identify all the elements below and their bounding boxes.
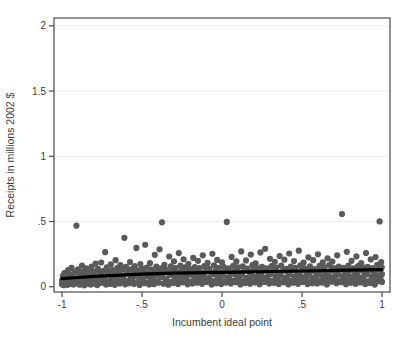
data-point [339, 211, 345, 217]
data-point [377, 218, 383, 224]
data-point [157, 246, 163, 252]
data-point [152, 252, 158, 258]
data-point [195, 258, 201, 264]
data-point [373, 254, 379, 260]
data-point [205, 260, 211, 266]
data-point [334, 252, 340, 258]
data-point [353, 253, 359, 259]
data-point [127, 259, 133, 265]
data-point [209, 251, 215, 257]
gridlines [55, 26, 389, 287]
data-point [113, 257, 119, 263]
scatter-plot: 0.511.52-1-.50.51Incumbent ideal pointRe… [0, 0, 412, 343]
y-axis-title: Receipts in millions 2002 $ [4, 92, 16, 217]
data-point [73, 223, 79, 229]
data-point [296, 248, 302, 254]
x-tick-label: -1 [58, 299, 67, 310]
data-point [243, 257, 249, 263]
data-point [315, 251, 321, 257]
data-point [147, 260, 153, 266]
x-tick-label: -.5 [136, 299, 148, 310]
data-point [229, 254, 235, 260]
y-tick-label: 1 [40, 151, 46, 162]
data-point [363, 250, 369, 256]
data-point [248, 251, 254, 257]
data-point [262, 246, 268, 252]
data-point [272, 259, 278, 265]
x-axis: -1-.50.51 [58, 292, 386, 310]
data-point [108, 261, 114, 267]
data-point [181, 256, 187, 262]
data-point [329, 259, 335, 265]
y-axis: 0.511.52 [32, 20, 54, 292]
data-point [233, 258, 239, 264]
data-point [166, 253, 172, 259]
y-tick-label: 1.5 [32, 86, 46, 97]
data-point [379, 271, 385, 277]
data-point [238, 248, 244, 254]
data-point [142, 242, 148, 248]
data-point [224, 219, 230, 225]
data-point [200, 252, 206, 258]
x-tick-label: 0 [219, 299, 225, 310]
data-point [310, 257, 316, 263]
data-point [185, 261, 191, 267]
x-tick-label: .5 [298, 299, 307, 310]
y-tick-label: 0 [40, 281, 46, 292]
y-tick-label: .5 [38, 216, 47, 227]
x-axis-title: Incumbent ideal point [172, 316, 272, 328]
data-point [176, 250, 182, 256]
data-point [159, 219, 165, 225]
data-point [301, 260, 307, 266]
y-tick-label: 2 [40, 20, 46, 31]
data-point [121, 235, 127, 241]
data-point [286, 250, 292, 256]
data-point [379, 279, 385, 285]
chart-figure: 0.511.52-1-.50.51Incumbent ideal pointRe… [0, 0, 412, 343]
data-point [291, 258, 297, 264]
data-point [344, 249, 350, 255]
x-tick-label: 1 [379, 299, 385, 310]
data-point [281, 257, 287, 263]
data-point [349, 258, 355, 264]
data-point [171, 258, 177, 264]
data-point [98, 259, 104, 265]
data-point [133, 245, 139, 251]
data-point [93, 260, 99, 266]
data-point [102, 249, 108, 255]
